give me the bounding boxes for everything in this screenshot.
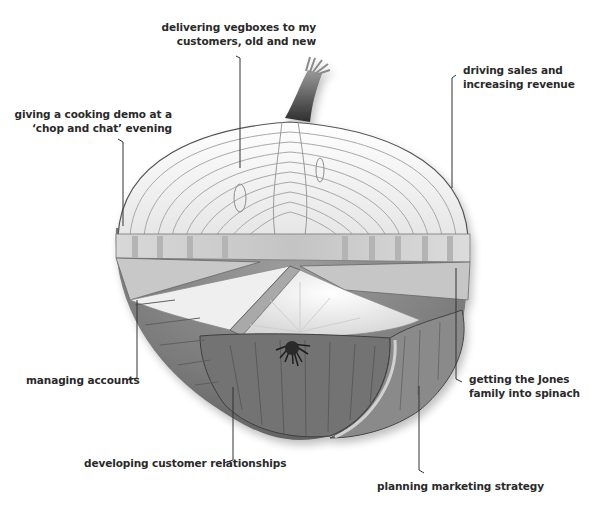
label-sales: driving sales and increasing revenue bbox=[463, 63, 575, 91]
label-relationships: developing customer relationships bbox=[84, 456, 286, 470]
label-vegboxes: delivering vegboxes to my customers, old… bbox=[146, 20, 316, 48]
onion-top-dome bbox=[118, 122, 468, 236]
label-marketing: planning marketing strategy bbox=[377, 479, 544, 493]
label-accounts: managing accounts bbox=[26, 373, 140, 387]
slice-band bbox=[116, 234, 470, 262]
label-jones: getting the Jones family into spinach bbox=[469, 372, 580, 400]
stem-fibres bbox=[306, 57, 330, 74]
onion-diagram: delivering vegboxes to my customers, old… bbox=[0, 0, 591, 506]
leader-sales bbox=[452, 75, 456, 188]
onion-stem bbox=[285, 70, 322, 122]
root-center bbox=[285, 341, 299, 355]
label-cooking-demo: giving a cooking demo at a ‘chop and cha… bbox=[2, 107, 172, 135]
